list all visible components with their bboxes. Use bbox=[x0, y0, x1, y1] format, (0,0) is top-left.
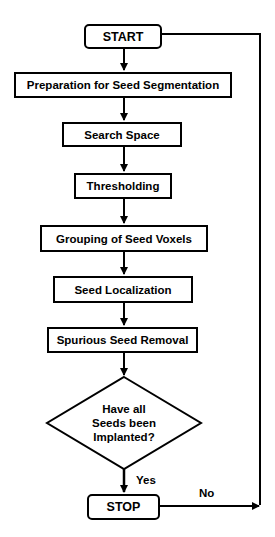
yes-label: Yes bbox=[136, 474, 156, 486]
step-label: Grouping of Seed Voxels bbox=[56, 233, 192, 245]
start-label: START bbox=[103, 30, 144, 44]
step-search-space: Search Space bbox=[62, 122, 182, 147]
step-grouping: Grouping of Seed Voxels bbox=[40, 225, 208, 252]
step-spurious-removal: Spurious Seed Removal bbox=[47, 327, 198, 353]
stop-label: STOP bbox=[107, 500, 141, 514]
step-label: Search Space bbox=[84, 129, 159, 141]
decision-text: Have all Seeds been Implanted? bbox=[74, 402, 174, 444]
step-localization: Seed Localization bbox=[53, 276, 193, 303]
step-preparation: Preparation for Seed Segmentation bbox=[14, 72, 232, 98]
decision-line-1: Have all bbox=[74, 402, 174, 416]
step-label: Spurious Seed Removal bbox=[57, 334, 189, 346]
step-label: Preparation for Seed Segmentation bbox=[27, 79, 219, 91]
step-label: Thresholding bbox=[87, 180, 160, 192]
decision-line-3: Implanted? bbox=[74, 430, 174, 444]
decision-line-2: Seeds been bbox=[74, 416, 174, 430]
no-label: No bbox=[199, 487, 214, 499]
stop-terminal: STOP bbox=[87, 494, 160, 520]
start-terminal: START bbox=[84, 24, 162, 49]
step-thresholding: Thresholding bbox=[74, 173, 172, 199]
step-label: Seed Localization bbox=[74, 284, 171, 296]
